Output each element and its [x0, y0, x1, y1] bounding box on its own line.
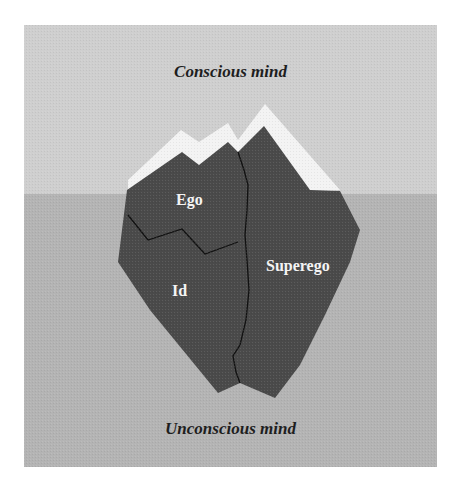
iceberg-diagram: Conscious mind Unconscious mind Ego Supe…	[24, 25, 437, 467]
iceberg-illustration	[24, 25, 437, 467]
superego-label: Superego	[266, 257, 330, 275]
unconscious-mind-label: Unconscious mind	[24, 419, 437, 439]
conscious-mind-label: Conscious mind	[24, 62, 437, 82]
id-label: Id	[172, 282, 187, 300]
ego-label: Ego	[176, 191, 203, 209]
